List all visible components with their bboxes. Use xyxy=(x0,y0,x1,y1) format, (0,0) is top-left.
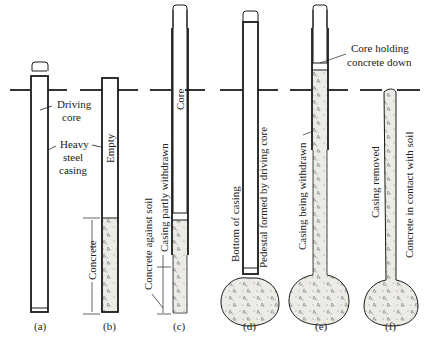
svg-text:Pedestal formed by driving cor: Pedestal formed by driving core xyxy=(257,127,269,268)
svg-text:Concrete: Concrete xyxy=(86,240,98,280)
svg-text:Casing partly withdrawn: Casing partly withdrawn xyxy=(158,143,170,252)
panel-d xyxy=(221,11,279,326)
svg-text:Driving: Driving xyxy=(57,98,92,110)
svg-text:(e): (e) xyxy=(315,320,328,333)
svg-text:Empty: Empty xyxy=(104,133,116,163)
svg-text:(b): (b) xyxy=(103,320,116,333)
svg-text:Bottom of casing: Bottom of casing xyxy=(229,186,241,262)
svg-text:(d): (d) xyxy=(243,320,256,333)
svg-text:(f): (f) xyxy=(385,320,396,333)
svg-text:Core: Core xyxy=(174,89,186,111)
svg-text:Heavy: Heavy xyxy=(60,138,89,150)
svg-text:Concrete in contact with soil: Concrete in contact with soil xyxy=(403,132,415,258)
svg-text:Core holding: Core holding xyxy=(351,42,409,54)
panel-a xyxy=(31,62,48,312)
pile-construction-diagram: Driving core Heavy steel casing (a) Empt… xyxy=(0,0,425,343)
svg-text:Concrete against soil: Concrete against soil xyxy=(142,198,154,290)
svg-text:core: core xyxy=(62,111,81,123)
svg-text:(a): (a) xyxy=(34,320,47,333)
panel-c xyxy=(172,5,188,313)
svg-text:Casing being withdrawn: Casing being withdrawn xyxy=(296,142,308,250)
svg-text:Casing removed: Casing removed xyxy=(369,146,381,218)
svg-text:concrete down: concrete down xyxy=(347,56,412,68)
svg-text:casing: casing xyxy=(59,164,88,176)
panel-b xyxy=(102,78,118,312)
svg-text:steel: steel xyxy=(63,151,83,163)
svg-text:(c): (c) xyxy=(173,320,186,333)
